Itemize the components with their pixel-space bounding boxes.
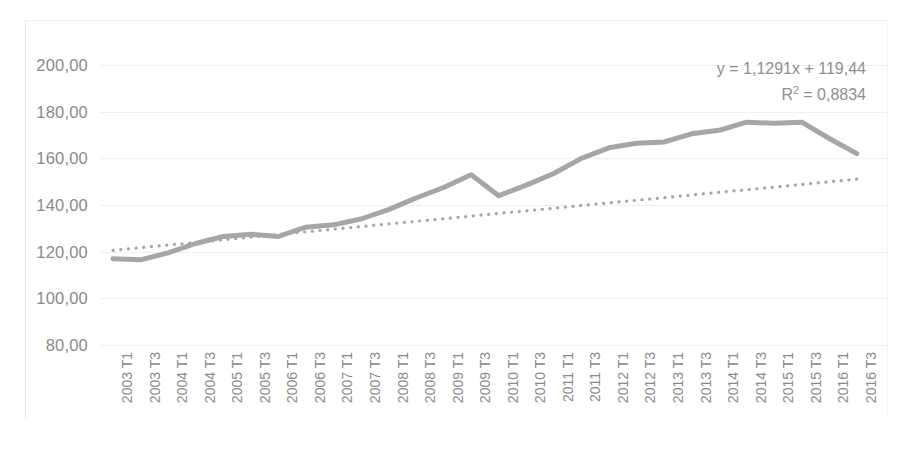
x-axis-tick-label: 2014 T3 (753, 352, 769, 403)
x-axis-tick-label: 2010 T3 (532, 352, 548, 403)
x-axis-tick-label: 2015 T1 (780, 352, 796, 403)
x-axis-tick-label: 2003 T3 (147, 352, 163, 403)
x-axis-tick-label: 2007 T3 (367, 352, 383, 403)
x-axis-tick-label: 2011 T3 (587, 352, 603, 402)
x-axis-tick-label: 2016 T1 (835, 352, 851, 403)
x-axis-tick-label: 2006 T1 (284, 352, 300, 403)
data-series-path (113, 122, 857, 260)
x-axis-tick-label: 2010 T1 (505, 352, 521, 403)
x-axis-tick-label: 2003 T1 (119, 352, 135, 403)
r-squared-prefix: R (781, 86, 793, 103)
x-axis-tick-label: 2009 T3 (477, 352, 493, 403)
x-axis-tick-label: 2008 T1 (395, 352, 411, 403)
x-axis-tick-label: 2013 T3 (698, 352, 714, 403)
x-axis-tick-label: 2011 T1 (560, 352, 576, 402)
x-axis-tick-label: 2012 T3 (642, 352, 658, 403)
x-axis-tick-label: 2004 T3 (202, 352, 218, 403)
x-axis-tick-label: 2012 T1 (615, 352, 631, 403)
x-axis-tick-label: 2013 T1 (670, 352, 686, 403)
x-axis-tick-label: 2007 T1 (339, 352, 355, 403)
x-axis: 2003 T12003 T32004 T12004 T32005 T12005 … (0, 352, 906, 452)
x-axis-tick-label: 2005 T1 (229, 352, 245, 403)
x-axis-tick-label: 2008 T3 (422, 352, 438, 403)
r-squared-value: = 0,8834 (799, 86, 866, 103)
trendline-annotation: y = 1,1291x + 119,44 R2 = 0,8834 (717, 57, 866, 108)
x-axis-tick-label: 2009 T1 (450, 352, 466, 403)
x-axis-tick-label: 2004 T1 (174, 352, 190, 403)
x-axis-tick-label: 2006 T3 (312, 352, 328, 403)
x-axis-tick-label: 2005 T3 (257, 352, 273, 403)
x-axis-tick-label: 2015 T3 (808, 352, 824, 403)
x-axis-tick-label: 2016 T3 (863, 352, 879, 403)
x-axis-tick-label: 2014 T1 (725, 352, 741, 403)
trendline-equation-label: y = 1,1291x + 119,44 (717, 57, 866, 82)
chart-container: 200,00180,00160,00140,00120,00100,0080,0… (0, 0, 906, 467)
r-squared-label: R2 = 0,8834 (717, 82, 866, 108)
trendline-path (113, 179, 857, 250)
